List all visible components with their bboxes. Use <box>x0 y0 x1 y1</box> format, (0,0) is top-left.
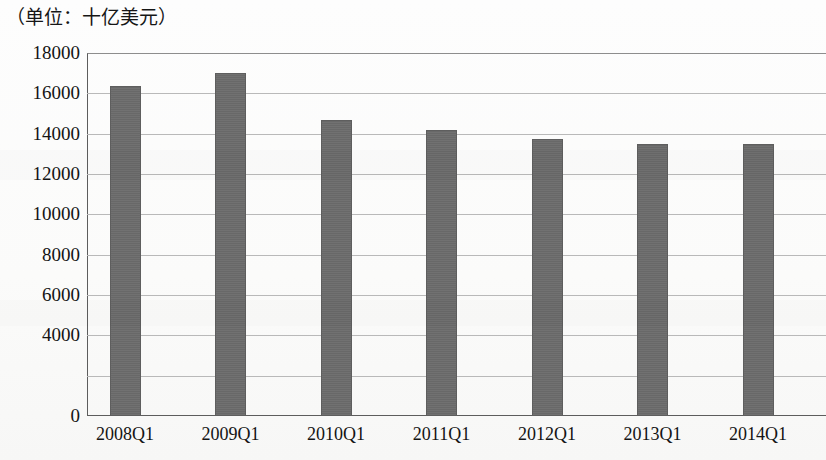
y-tick-label: 8000 <box>0 245 80 264</box>
plot-area <box>87 53 826 416</box>
x-tick-label: 2013Q1 <box>603 424 703 444</box>
y-tick-label: 14000 <box>0 124 80 143</box>
x-tick-label: 2014Q1 <box>708 424 808 444</box>
x-tick-label: 2008Q1 <box>75 424 175 444</box>
y-tick-label: 0 <box>0 406 80 425</box>
chart-page: （单位：十亿美元） 040006000800010000120001400016… <box>0 0 826 460</box>
y-tick-label: 16000 <box>0 83 80 102</box>
y-axis-labels: 04000600080001000012000140001600018000 <box>0 0 80 460</box>
y-tick-label: 4000 <box>0 325 80 344</box>
bar <box>532 139 563 416</box>
bar <box>637 144 668 416</box>
x-tick-label: 2009Q1 <box>181 424 281 444</box>
bar <box>321 120 352 416</box>
bar <box>110 86 141 416</box>
y-tick-label: 6000 <box>0 285 80 304</box>
x-tick-label: 2011Q1 <box>392 424 492 444</box>
x-tick-label: 2010Q1 <box>286 424 386 444</box>
bar <box>743 144 774 416</box>
bar <box>426 130 457 416</box>
y-tick-label: 18000 <box>0 43 80 62</box>
y-tick-label: 12000 <box>0 164 80 183</box>
bar <box>215 73 246 416</box>
x-axis-labels: 2008Q12009Q12010Q12011Q12012Q12013Q12014… <box>0 424 826 454</box>
gridline <box>87 93 826 94</box>
y-tick-label: 10000 <box>0 204 80 223</box>
x-tick-label: 2012Q1 <box>497 424 597 444</box>
